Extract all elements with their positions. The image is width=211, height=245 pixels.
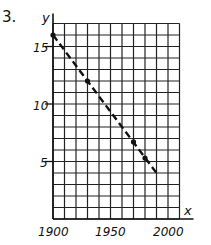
y-tick-5: 5 [40,156,48,170]
data-point [142,155,147,160]
data-point [131,139,136,144]
x-tick-2000: 2000 [153,225,184,239]
x-tick-1950: 1950 [95,225,126,239]
y-tick-15: 15 [33,41,48,55]
data-point [50,32,55,37]
x-axis-label: x [184,203,192,218]
y-axis-label: y [42,10,50,25]
data-point [85,78,90,83]
line-chart [0,0,211,245]
y-tick-10: 10 [33,99,48,113]
x-tick-1900: 1900 [38,225,69,239]
